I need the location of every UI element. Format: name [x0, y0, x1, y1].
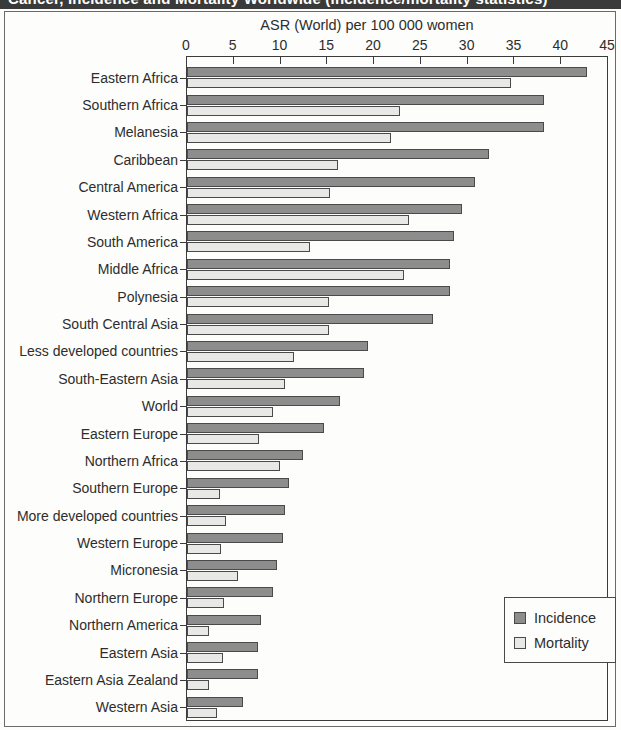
category-label: World — [142, 398, 178, 414]
y-tick-mark — [180, 488, 186, 489]
chart-category-row: Middle Africa — [186, 256, 607, 283]
y-tick-mark — [180, 105, 186, 106]
chart-category-row: Western Asia — [186, 694, 607, 721]
chart-category-row: Less developed countries — [186, 338, 607, 365]
bar-incidence — [187, 259, 450, 269]
legend-label: Incidence — [534, 610, 596, 626]
category-label: Central America — [78, 179, 178, 195]
bar-incidence — [187, 396, 340, 406]
category-label: Polynesia — [117, 289, 178, 305]
legend-item-incidence[interactable]: Incidence — [514, 605, 606, 630]
category-label: Northern Africa — [85, 453, 178, 469]
category-label: Eastern Africa — [91, 70, 178, 86]
bar-mortality — [187, 516, 226, 526]
x-tick-label: 35 — [506, 37, 522, 53]
x-axis-tick-labels: 051015202530354045 — [186, 37, 607, 55]
bar-mortality — [187, 106, 400, 116]
bar-incidence — [187, 505, 285, 515]
category-label: Less developed countries — [19, 343, 178, 359]
x-axis-title: ASR (World) per 100 000 women — [5, 17, 617, 33]
x-tick-label: 20 — [365, 37, 381, 53]
x-tick-label: 5 — [229, 37, 237, 53]
bar-incidence — [187, 615, 261, 625]
bar-incidence — [187, 122, 544, 132]
bar-mortality — [187, 270, 404, 280]
bar-mortality — [187, 297, 329, 307]
bar-mortality — [187, 544, 221, 554]
chart-category-row: Polynesia — [186, 283, 607, 310]
y-tick-mark — [180, 406, 186, 407]
bar-mortality — [187, 489, 220, 499]
bar-incidence — [187, 314, 433, 324]
chart-category-row: Caribbean — [186, 146, 607, 173]
y-tick-mark — [180, 297, 186, 298]
y-tick-mark — [180, 434, 186, 435]
x-tick-mark — [326, 56, 327, 64]
category-label: Melanesia — [114, 124, 178, 140]
bar-mortality — [187, 626, 209, 636]
x-tick-mark — [233, 56, 234, 64]
chart-category-row: World — [186, 393, 607, 420]
bar-mortality — [187, 215, 409, 225]
bar-incidence — [187, 560, 277, 570]
chart-category-row: Western Europe — [186, 529, 607, 556]
y-tick-mark — [180, 570, 186, 571]
x-tick-label: 40 — [552, 37, 568, 53]
y-tick-mark — [180, 516, 186, 517]
y-tick-mark — [180, 215, 186, 216]
chart-frame: ASR (World) per 100 000 women 0510152025… — [4, 11, 616, 727]
category-label: Eastern Asia Zealand — [45, 672, 178, 688]
bar-incidence — [187, 642, 258, 652]
bar-incidence — [187, 669, 258, 679]
chart-category-row: Southern Europe — [186, 475, 607, 502]
chart-category-row: Micronesia — [186, 557, 607, 584]
category-label: Western Europe — [77, 535, 178, 551]
bar-mortality — [187, 653, 223, 663]
y-tick-mark — [180, 598, 186, 599]
y-tick-mark — [180, 707, 186, 708]
x-tick-label: 25 — [412, 37, 428, 53]
category-label: South-Eastern Asia — [58, 371, 178, 387]
category-label: Eastern Asia — [99, 645, 178, 661]
x-tick-label: 10 — [272, 37, 288, 53]
x-tick-label: 15 — [319, 37, 335, 53]
y-tick-mark — [180, 625, 186, 626]
bar-mortality — [187, 133, 391, 143]
legend-swatch-incidence-icon — [514, 612, 526, 624]
category-label: Middle Africa — [98, 261, 178, 277]
bar-mortality — [187, 325, 329, 335]
chart-category-row: Melanesia — [186, 119, 607, 146]
category-label: Eastern Europe — [81, 426, 178, 442]
bar-incidence — [187, 697, 243, 707]
chart-category-row: Southern Africa — [186, 91, 607, 118]
chart-page: Cancer, Incidence and Mortality Worldwid… — [0, 0, 621, 730]
bar-incidence — [187, 450, 303, 460]
y-tick-mark — [180, 269, 186, 270]
bar-mortality — [187, 461, 280, 471]
y-tick-mark — [180, 78, 186, 79]
bar-incidence — [187, 67, 587, 77]
y-tick-mark — [180, 132, 186, 133]
category-label: Caribbean — [113, 152, 178, 168]
legend-item-mortality[interactable]: Mortality — [514, 630, 606, 655]
bar-mortality — [187, 407, 273, 417]
legend-swatch-mortality-icon — [514, 637, 526, 649]
y-tick-mark — [180, 680, 186, 681]
bar-incidence — [187, 177, 475, 187]
chart-category-row: South America — [186, 228, 607, 255]
bar-mortality — [187, 160, 338, 170]
chart-category-row: Eastern Africa — [186, 64, 607, 91]
bar-incidence — [187, 231, 454, 241]
x-tick-label: 0 — [182, 37, 190, 53]
document-title: Cancer, Incidence and Mortality Worldwid… — [8, 0, 548, 7]
bar-incidence — [187, 478, 289, 488]
category-label: Southern Africa — [82, 97, 178, 113]
chart-category-row: Western Africa — [186, 201, 607, 228]
bar-incidence — [187, 533, 283, 543]
x-tick-mark — [373, 56, 374, 64]
category-label: South Central Asia — [62, 316, 178, 332]
y-tick-mark — [180, 461, 186, 462]
bar-incidence — [187, 341, 368, 351]
x-tick-mark — [513, 56, 514, 64]
y-tick-mark — [180, 543, 186, 544]
